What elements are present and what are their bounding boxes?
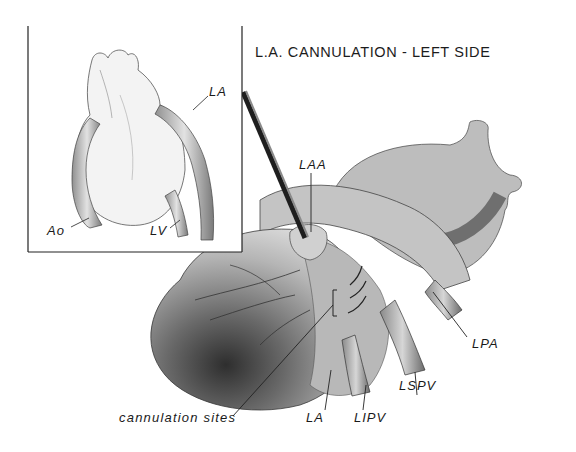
- heart-illustration: [0, 0, 576, 452]
- label-lipv: LIPV: [354, 410, 386, 425]
- label-lspv: LSPV: [399, 378, 436, 393]
- inset-label-la: LA: [209, 84, 227, 99]
- label-cannulation-sites: cannulation sites: [119, 410, 236, 425]
- label-la: LA: [306, 410, 324, 425]
- inset-label-lv: LV: [150, 223, 167, 238]
- label-lpa: LPA: [472, 336, 499, 351]
- label-laa: LAA: [299, 157, 327, 172]
- figure-title: L.A. CANNULATION - LEFT SIDE: [255, 44, 490, 60]
- inset-label-ao: Ao: [47, 223, 65, 238]
- inset-figure: [28, 26, 242, 252]
- figure: L.A. CANNULATION - LEFT SIDE LA Ao LV LA…: [0, 0, 576, 452]
